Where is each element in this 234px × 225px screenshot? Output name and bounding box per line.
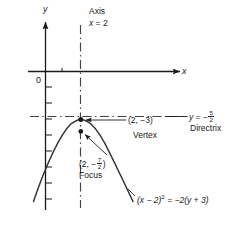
directrix-name-label: Directrix <box>190 124 221 133</box>
focus-coordinates-prefix: (2, − <box>79 159 96 169</box>
focus-leader-line <box>85 135 107 156</box>
focus-coordinates-label: (2, −72) <box>79 157 106 171</box>
parabola-equation-label: (x − 2)2 = −2(y + 3) <box>137 194 209 205</box>
focus-name-label: Focus <box>79 171 102 180</box>
vertex-name-label: Vertex <box>133 131 157 140</box>
equation-right-side: = −2(y + 3) <box>165 195 209 205</box>
directrix-equation-relation: = − <box>193 112 208 122</box>
focus-coordinates-suffix: ) <box>103 159 106 169</box>
x-axis-label: x <box>182 67 187 76</box>
equation-left-side: (x − 2) <box>137 195 161 205</box>
origin-label: 0 <box>36 76 41 85</box>
directrix-equation-label: y = −52 <box>189 110 214 124</box>
y-axis-label: y <box>43 5 48 14</box>
axis-label: Axis <box>89 7 105 16</box>
axis-equation-relation: = <box>93 18 103 28</box>
vertex-coordinates-label: (2, −3) <box>128 116 153 125</box>
parabola-figure: Axis x = 2 y x 0 (2, −3) Vertex (2, −72)… <box>0 0 234 225</box>
vertex-point <box>78 117 83 122</box>
axis-equation-label: x = 2 <box>89 19 108 28</box>
axis-equation-value: 2 <box>103 18 108 28</box>
focus-point <box>78 129 83 134</box>
directrix-fraction: 52 <box>208 110 213 124</box>
x-axis <box>28 68 180 72</box>
focus-fraction: 72 <box>97 157 102 171</box>
